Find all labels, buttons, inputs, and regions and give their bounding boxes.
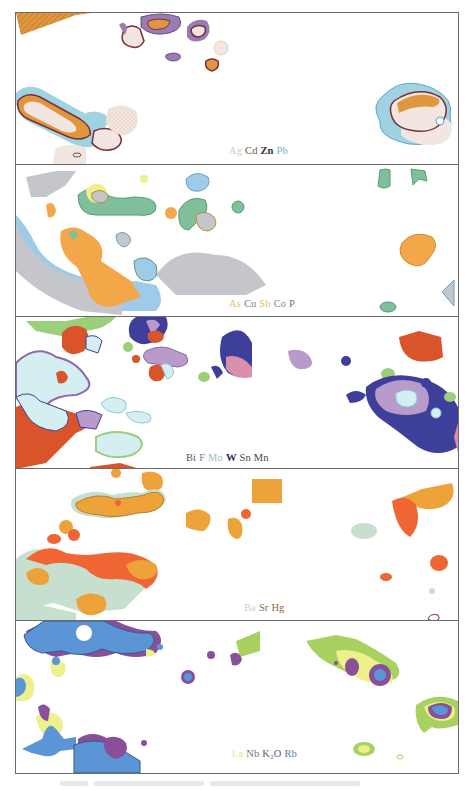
legend-label-nb: Nb [246,748,259,759]
geochemical-anomaly-figure: AgCdZnPb [15,12,459,774]
legend-label-ag: Ag [229,145,242,156]
caption-blur-segment [210,781,360,786]
anomaly-map-ba-sr-hg [16,469,458,621]
legend-label-sn: Sn [239,452,250,463]
map-panel-as-cu-sb-co-p: AsCuSbCoP [15,164,459,318]
legend-la-nb-k2o-rb: LaNbK₂ORb [232,748,300,759]
legend-ag-cd-zn-pb: AgCdZnPb [229,145,291,156]
legend-label-rb: Rb [284,748,296,759]
legend-label-as: As [229,298,241,309]
caption-blur-segment [60,781,88,786]
legend-label-bi: Bi [186,452,196,463]
legend-label-zn: Zn [261,145,274,156]
anomaly-map-as-cu-sb-co-p [16,165,458,317]
legend-label-sb: Sb [259,298,270,309]
legend-label-f: F [199,452,205,463]
legend-label-mo: Mo [208,452,223,463]
anomaly-map-bi-f-mo-w-sn-mn [16,317,458,469]
legend-label-cd: Cd [245,145,257,156]
legend-label-w: W [226,452,237,463]
map-panel-ag-cd-zn-pb: AgCdZnPb [15,12,459,166]
legend-label-co: Co [274,298,286,309]
map-panel-bi-f-mo-w-sn-mn: BiFMoWSnMn [15,316,459,470]
legend-bi-f-mo-w-sn-mn: BiFMoWSnMn [186,452,272,463]
legend-ba-sr-hg: BaSrHg [244,602,287,613]
figure-caption-illegible [60,778,420,788]
legend-label-cu: Cu [244,298,256,309]
legend-label-k2o: K₂O [262,748,281,759]
legend-label-ba: Ba [244,602,256,613]
map-panel-ba-sr-hg: BaSrHg [15,468,459,622]
legend-label-pb: Pb [277,145,288,156]
legend-label-hg: Hg [271,602,284,613]
legend-as-cu-sb-co-p: AsCuSbCoP [229,298,298,309]
legend-label-la: La [232,748,243,759]
legend-label-mn: Mn [254,452,269,463]
map-panel-la-nb-k2o-rb: LaNbK₂ORb [15,620,459,774]
anomaly-map-ag-cd-zn-pb [16,13,458,165]
caption-blur-segment [94,781,204,786]
legend-label-sr: Sr [259,602,269,613]
legend-label-p: P [289,298,295,309]
